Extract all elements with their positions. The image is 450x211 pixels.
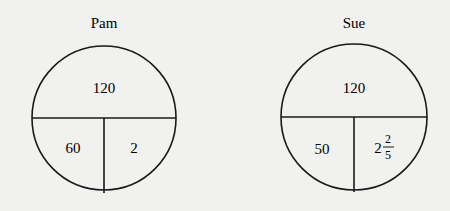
sue-diagram: Sue 120 50 2 2 5: [281, 15, 427, 192]
pam-top-value: 120: [93, 80, 116, 96]
diagram-canvas: Pam 120 60 2 Sue 120 50 2 2 5: [0, 0, 450, 211]
sue-title: Sue: [343, 15, 366, 31]
pam-bottom-left-value: 60: [66, 140, 81, 156]
sue-bottom-right-denominator: 5: [385, 148, 391, 162]
sue-top-value: 120: [343, 80, 366, 96]
pam-bottom-right-value: 2: [130, 140, 138, 156]
sue-bottom-right-whole: 2: [374, 140, 382, 156]
sue-bottom-right-numerator: 2: [385, 132, 391, 146]
pam-diagram: Pam 120 60 2: [32, 15, 176, 193]
sue-bottom-left-value: 50: [315, 141, 330, 157]
sue-bottom-right-mixed-number: 2 2 5: [374, 132, 394, 162]
pam-title: Pam: [91, 15, 118, 31]
